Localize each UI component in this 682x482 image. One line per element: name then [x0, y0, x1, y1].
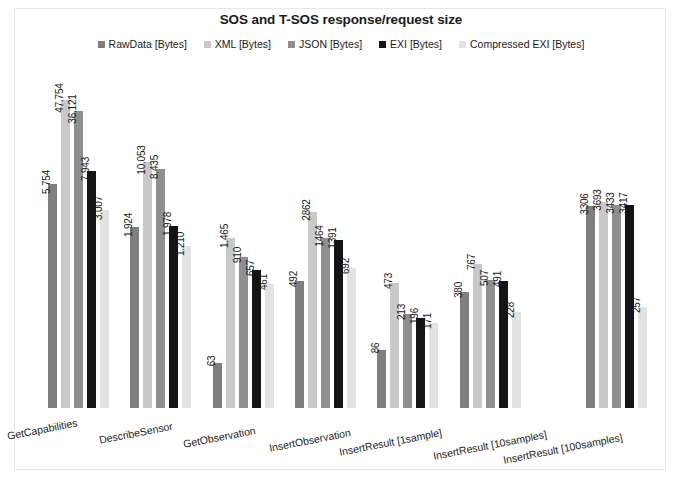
legend-swatch-icon	[459, 41, 466, 48]
bar-value-label: 171	[422, 313, 434, 329]
bar[interactable]	[61, 100, 70, 408]
bar-group: 3306369334333417257	[586, 64, 651, 408]
bar[interactable]	[156, 169, 165, 408]
bar-value-label: 910	[232, 247, 244, 263]
bar-value-label: 461	[258, 274, 270, 290]
category-label: DescribeSensor	[98, 420, 174, 446]
bar-value-label: 10.053	[136, 145, 148, 174]
bar[interactable]	[499, 281, 508, 408]
bar-value-label: 507	[479, 270, 491, 286]
bar-value-label: 3417	[618, 192, 630, 213]
bar-value-label: 47.754	[54, 84, 66, 113]
bar-group: 5.75447.75436.1217.9433.007	[48, 64, 113, 408]
bar-value-label: 7.943	[80, 157, 92, 181]
bar-value-label: 491	[492, 271, 504, 287]
bar-value-label: 1.210	[175, 232, 187, 256]
legend-item-1[interactable]: XML [Bytes]	[204, 38, 271, 50]
bar[interactable]	[295, 281, 304, 408]
bar-value-label: 380	[453, 282, 465, 298]
bar[interactable]	[321, 238, 330, 408]
bar-group: 631.465910657461	[213, 64, 278, 408]
legend-item-2[interactable]: JSON [Bytes]	[288, 38, 362, 50]
bar[interactable]	[265, 284, 274, 408]
bar[interactable]	[403, 314, 412, 408]
bar-value-label: 2862	[301, 199, 313, 220]
legend-label: Compressed EXI [Bytes]	[470, 38, 584, 50]
bar-value-label: 8.435	[149, 155, 161, 179]
bar-value-label: 1.924	[123, 213, 135, 237]
bar[interactable]	[429, 323, 438, 408]
plot-area: 5.75447.75436.1217.9433.0071.92410.0538.…	[14, 64, 666, 408]
legend-swatch-icon	[98, 41, 105, 48]
bar-group: 86473213196171	[377, 64, 442, 408]
chart-legend: RawData [Bytes]XML [Bytes]JSON [Bytes]EX…	[0, 38, 682, 50]
bar[interactable]	[213, 363, 222, 408]
bar-value-label: 86	[370, 343, 382, 354]
legend-label: XML [Bytes]	[215, 38, 271, 50]
chart-page: SOS and T-SOS response/request size RawD…	[0, 0, 682, 482]
bar-value-label: 492	[288, 271, 300, 287]
bar[interactable]	[612, 205, 621, 408]
bar-value-label: 36.121	[67, 95, 79, 124]
bar-value-label: 257	[631, 297, 643, 313]
bar[interactable]	[512, 312, 521, 408]
bar[interactable]	[390, 283, 399, 408]
bar[interactable]	[100, 210, 109, 408]
category-label: InsertResult [1sample]	[338, 426, 443, 458]
bar-value-label: 692	[340, 258, 352, 274]
bar-group: 380767507491228	[460, 64, 525, 408]
legend-label: EXI [Bytes]	[390, 38, 442, 50]
bar-value-label: 1464	[314, 226, 326, 247]
bar-value-label: 3.007	[93, 196, 105, 220]
legend-swatch-icon	[204, 41, 211, 48]
bar-value-label: 473	[383, 273, 395, 289]
bar-value-label: 3693	[592, 189, 604, 210]
bar-group: 1.92410.0538.4351.9781.210	[130, 64, 195, 408]
legend-swatch-icon	[379, 41, 386, 48]
bar-value-label: 213	[396, 304, 408, 320]
bar[interactable]	[130, 227, 139, 408]
bar-value-label: 5.754	[41, 170, 53, 194]
bar-value-label: 1391	[327, 228, 339, 249]
bar-value-label: 3433	[605, 192, 617, 213]
bar[interactable]	[74, 111, 83, 408]
category-label: GetCapabilities	[6, 416, 78, 441]
bar-value-label: 1.465	[219, 224, 231, 248]
bar-value-label: 1.978	[162, 212, 174, 236]
legend-swatch-icon	[288, 41, 295, 48]
bar[interactable]	[252, 270, 261, 408]
bar[interactable]	[347, 268, 356, 408]
bar[interactable]	[226, 238, 235, 408]
category-axis: GetCapabilitiesDescribeSensorGetObservat…	[0, 408, 682, 468]
legend-item-3[interactable]: EXI [Bytes]	[379, 38, 442, 50]
bar[interactable]	[48, 184, 57, 408]
bar-value-label: 196	[409, 308, 421, 324]
bar-value-label: 3306	[579, 193, 591, 214]
bar[interactable]	[377, 350, 386, 408]
bar[interactable]	[416, 318, 425, 408]
bar[interactable]	[638, 307, 647, 408]
bar-group: 492286214641391692	[295, 64, 360, 408]
bar-value-label: 228	[505, 302, 517, 318]
bar[interactable]	[586, 206, 595, 408]
bar[interactable]	[460, 292, 469, 408]
chart-title: SOS and T-SOS response/request size	[0, 12, 682, 27]
bar-value-label: 767	[466, 254, 478, 270]
bar[interactable]	[143, 162, 152, 408]
bar[interactable]	[239, 257, 248, 408]
legend-label: RawData [Bytes]	[109, 38, 187, 50]
bar[interactable]	[599, 202, 608, 408]
bar[interactable]	[182, 246, 191, 408]
bar[interactable]	[486, 280, 495, 408]
legend-item-4[interactable]: Compressed EXI [Bytes]	[459, 38, 584, 50]
legend-item-0[interactable]: RawData [Bytes]	[98, 38, 187, 50]
legend-label: JSON [Bytes]	[299, 38, 362, 50]
bar-value-label: 63	[206, 355, 218, 366]
category-label: GetObservation	[182, 424, 256, 450]
bar-value-label: 657	[245, 260, 257, 276]
